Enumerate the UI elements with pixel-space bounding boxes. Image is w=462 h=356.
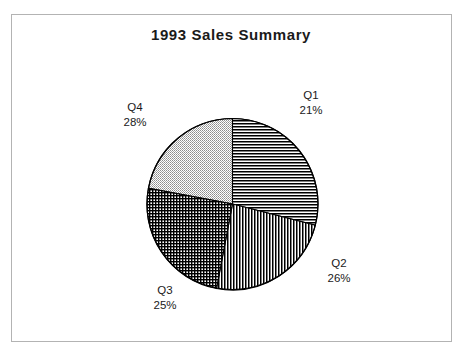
pie-label-q4-value: 28% <box>112 115 158 130</box>
pie-svg <box>146 114 319 294</box>
pie-chart-graphic <box>146 114 319 294</box>
pie-label-q3-value: 25% <box>142 298 188 313</box>
pie-label-q2-value: 26% <box>316 271 362 286</box>
pie-label-q3: Q3 25% <box>142 283 188 313</box>
pie-label-q4: Q4 28% <box>112 100 158 130</box>
chart-title: 1993 Sales Summary <box>0 26 462 43</box>
pie-label-q2: Q2 26% <box>316 256 362 286</box>
pie-slice-q3 <box>147 188 233 288</box>
pie-label-q2-name: Q2 <box>316 256 362 271</box>
pie-label-q1-value: 21% <box>288 103 334 118</box>
pie-label-q3-name: Q3 <box>142 283 188 298</box>
pie-label-q1: Q1 21% <box>288 88 334 118</box>
pie-label-q1-name: Q1 <box>288 88 334 103</box>
pie-label-q4-name: Q4 <box>112 100 158 115</box>
pie-chart-page: 1993 Sales Summary <box>0 0 462 356</box>
